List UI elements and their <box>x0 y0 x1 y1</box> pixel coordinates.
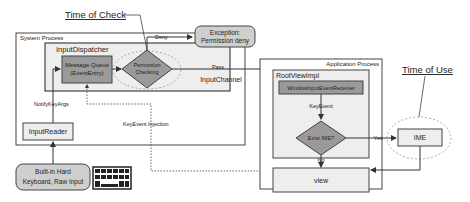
time-of-use-pointer <box>419 76 425 117</box>
exception-label-1: Exception: <box>210 29 241 37</box>
exist-ime-label: Exist IME? <box>308 135 334 141</box>
key-event-injection-label: KeyEvent Injection <box>123 121 169 127</box>
view-label: view <box>314 177 329 184</box>
no-label: No <box>317 157 324 163</box>
key-event-label: KeyEvent <box>309 103 333 109</box>
notify-key-args-label: NotifyKeyArgs <box>34 101 69 107</box>
diagram: System Process InputDispatcher Message Q… <box>0 0 470 202</box>
message-queue-label-1: Message Queue <box>65 62 110 68</box>
keyboard-icon <box>93 167 131 189</box>
keyboard-label-2: Keyboard, Raw Input <box>23 178 84 186</box>
pass-label: Pass <box>212 64 224 70</box>
system-process-label: System Process <box>20 35 63 41</box>
input-dispatcher-label: InputDispatcher <box>56 45 109 54</box>
message-queue-label-2: (EventEntry) <box>70 70 103 76</box>
input-channel-label: InputChannel <box>200 76 242 84</box>
permission-checking-label-2: Checking <box>136 69 159 75</box>
yes-label: Yes <box>374 135 383 141</box>
root-view-impl-label: RootViewImpl <box>276 72 320 80</box>
exception-label-2: Permission deny <box>201 37 250 45</box>
application-process-label: Application Process <box>326 61 379 67</box>
input-reader-label: InputReader <box>29 128 68 136</box>
window-input-event-receiver-label: WindowInputEventReceiver <box>287 85 355 91</box>
keyboard-label-1: Built-in Hard <box>35 168 71 175</box>
ime-label: IME <box>414 134 427 141</box>
time-of-use-label: Time of Use <box>402 64 453 75</box>
deny-label: Deny <box>155 34 168 40</box>
permission-checking-label-1: Permission <box>133 62 160 68</box>
time-of-check-label: Time of Check <box>65 9 126 20</box>
